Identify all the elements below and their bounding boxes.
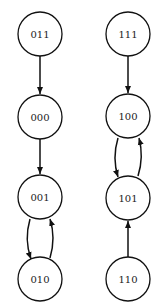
edge-100-101 xyxy=(115,138,118,177)
edge-001-010 xyxy=(27,219,31,259)
edges xyxy=(27,56,141,259)
node-label: 101 xyxy=(118,193,137,204)
edge-010-001 xyxy=(50,219,53,258)
node-000: 000 xyxy=(18,95,62,139)
state-diagram: 011 000 001 010 111 100 101 110 xyxy=(0,0,161,308)
node-label: 110 xyxy=(118,274,137,285)
node-010: 010 xyxy=(18,257,62,301)
node-label: 000 xyxy=(30,112,49,123)
node-label: 100 xyxy=(118,111,137,122)
node-101: 101 xyxy=(106,176,150,220)
node-label: 011 xyxy=(30,29,49,40)
node-label: 111 xyxy=(118,29,137,40)
node-label: 010 xyxy=(30,274,49,285)
node-110: 110 xyxy=(106,257,150,301)
edge-101-100 xyxy=(138,138,141,176)
node-100: 100 xyxy=(106,94,150,138)
node-001: 001 xyxy=(18,175,62,219)
node-label: 001 xyxy=(30,192,49,203)
node-011: 011 xyxy=(18,12,62,56)
node-111: 111 xyxy=(106,12,150,56)
